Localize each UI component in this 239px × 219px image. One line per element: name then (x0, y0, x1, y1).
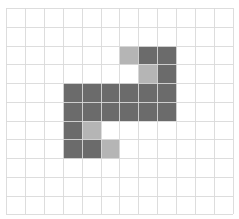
grid-cell-light (101, 139, 120, 158)
grid-cell-dark (101, 102, 120, 121)
grid-line-vertical (6, 8, 7, 214)
grid-line-horizontal (6, 177, 233, 178)
grid-cell-light (138, 64, 157, 83)
grid-line-horizontal (6, 64, 233, 65)
grid-cell-dark (157, 83, 176, 102)
grid-cell-dark (63, 102, 82, 121)
grid-line-vertical (82, 8, 83, 214)
grid-line-vertical (214, 8, 215, 214)
grid-line-vertical (138, 8, 139, 214)
grid-cell-dark (63, 121, 82, 140)
grid-cell-dark (119, 102, 138, 121)
grid-line-horizontal (6, 214, 233, 215)
grid-line-horizontal (6, 83, 233, 84)
grid-line-vertical (63, 8, 64, 214)
grid-cell-dark (63, 83, 82, 102)
grid-cell-dark (138, 46, 157, 65)
grid-line-vertical (195, 8, 196, 214)
grid-line-horizontal (6, 121, 233, 122)
grid-line-horizontal (6, 139, 233, 140)
grid-cell-dark (82, 139, 101, 158)
grid-line-vertical (176, 8, 177, 214)
pixel-grid (6, 8, 233, 214)
grid-cell-light (119, 46, 138, 65)
grid-cell-dark (82, 83, 101, 102)
grid-cell-light (82, 121, 101, 140)
grid-line-horizontal (6, 27, 233, 28)
grid-cell-dark (138, 83, 157, 102)
grid-line-vertical (25, 8, 26, 214)
grid-cell-dark (82, 102, 101, 121)
grid-line-horizontal (6, 158, 233, 159)
grid-line-horizontal (6, 46, 233, 47)
grid-line-horizontal (6, 196, 233, 197)
grid-line-vertical (233, 8, 234, 214)
grid-cell-dark (157, 64, 176, 83)
grid-cell-dark (63, 139, 82, 158)
grid-line-horizontal (6, 8, 233, 9)
grid-cell-dark (101, 83, 120, 102)
grid-line-horizontal (6, 102, 233, 103)
grid-line-vertical (44, 8, 45, 214)
grid-line-vertical (119, 8, 120, 214)
grid-cell-dark (138, 102, 157, 121)
grid-line-vertical (101, 8, 102, 214)
grid-line-vertical (157, 8, 158, 214)
grid-cell-dark (157, 102, 176, 121)
grid-cell-dark (119, 83, 138, 102)
grid-cell-dark (157, 46, 176, 65)
